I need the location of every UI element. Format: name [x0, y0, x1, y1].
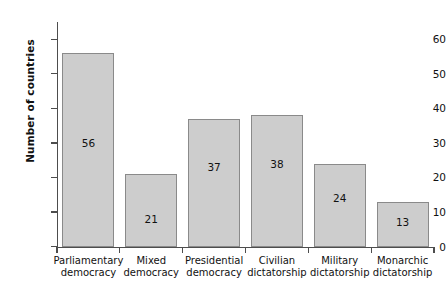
x-tick-2 — [182, 247, 183, 253]
y-tick-50 — [51, 73, 57, 74]
x-tick-1 — [119, 247, 120, 253]
category-label-2: Presidentialdemocracy — [185, 255, 243, 279]
bar-value-label-3: 38 — [270, 158, 283, 170]
category-label-0: Parliamentarydemocracy — [53, 255, 123, 279]
bar-value-label-5: 13 — [396, 216, 409, 228]
y-tick-label-30: 30 — [400, 137, 446, 149]
bar-chart: Number of countries 0102030405060 562137… — [0, 0, 446, 293]
category-label-line: Military — [310, 255, 370, 267]
y-axis-line — [57, 22, 58, 248]
category-label-4: Militarydictatorship — [310, 255, 370, 279]
x-tick-6 — [433, 247, 434, 253]
category-label-line: dictatorship — [247, 267, 307, 279]
category-label-line: Parliamentary — [53, 255, 123, 267]
y-tick-20 — [51, 177, 57, 178]
bar-value-label-2: 37 — [207, 161, 220, 173]
bar-value-label-1: 21 — [145, 213, 158, 225]
y-tick-label-50: 50 — [400, 68, 446, 80]
bar-4 — [314, 164, 366, 247]
bar-0 — [62, 53, 114, 247]
category-label-line: dictatorship — [310, 267, 370, 279]
x-tick-4 — [308, 247, 309, 253]
category-label-line: Monarchic — [373, 255, 433, 267]
bar-2 — [188, 119, 240, 247]
y-tick-label-20: 20 — [400, 171, 446, 183]
y-tick-10 — [51, 211, 57, 212]
y-tick-60 — [51, 39, 57, 40]
category-label-line: Civilian — [247, 255, 307, 267]
category-label-line: Presidential — [185, 255, 243, 267]
category-label-line: Mixed — [123, 255, 179, 267]
category-label-line: democracy — [53, 267, 123, 279]
x-tick-5 — [371, 247, 372, 253]
y-tick-40 — [51, 108, 57, 109]
y-tick-label-40: 40 — [400, 102, 446, 114]
bar-value-label-4: 24 — [333, 192, 346, 204]
bar-3 — [251, 115, 303, 246]
category-label-3: Civiliandictatorship — [247, 255, 307, 279]
bar-1 — [125, 174, 177, 247]
y-axis-title: Number of countries — [24, 1, 36, 201]
category-label-line: dictatorship — [373, 267, 433, 279]
y-tick-label-60: 60 — [400, 33, 446, 45]
category-label-1: Mixeddemocracy — [123, 255, 179, 279]
x-tick-3 — [245, 247, 246, 253]
category-label-line: democracy — [185, 267, 243, 279]
x-tick-0 — [56, 247, 57, 253]
bar-value-label-0: 56 — [82, 137, 95, 149]
category-label-line: democracy — [123, 267, 179, 279]
category-label-5: Monarchicdictatorship — [373, 255, 433, 279]
y-tick-30 — [51, 142, 57, 143]
